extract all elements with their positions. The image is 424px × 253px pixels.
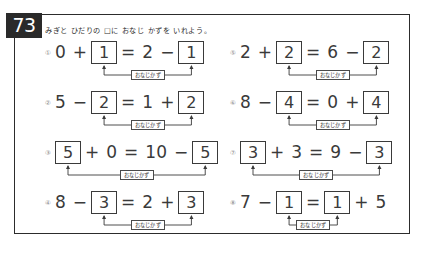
same-number-connector: おなじかず: [227, 214, 417, 236]
number-term: 1: [142, 94, 153, 111]
equation: 8−4=0+4: [240, 88, 389, 116]
connector-lines: [227, 114, 417, 136]
operator: −: [159, 44, 175, 61]
answer-box[interactable]: 1: [91, 41, 117, 64]
same-number-label: おなじかず: [131, 220, 165, 230]
problem-item: ④8−3=2+3おなじかず: [42, 188, 232, 238]
problem-marker: ④: [42, 199, 54, 207]
operator: =: [120, 94, 136, 111]
operator: −: [347, 144, 363, 161]
number-term: 6: [327, 44, 338, 61]
problem-marker: ⑥: [227, 99, 239, 107]
same-number-connector: おなじかず: [227, 114, 417, 136]
number-term: 2: [142, 44, 153, 61]
problem-item: ⑤2+2=6−2おなじかず: [227, 38, 417, 88]
answer-box[interactable]: 2: [91, 91, 117, 114]
equation: 8−3=2+3: [55, 188, 204, 216]
problem-item: ⑧7−1=1+5おなじかず: [227, 188, 417, 238]
problem-column-right: ⑤2+2=6−2おなじかず⑥8−4=0+4おなじかず⑦3+3=9−3おなじかず⑧…: [227, 38, 417, 238]
problem-item: ⑦3+3=9−3おなじかず: [227, 138, 417, 188]
same-number-label: おなじかず: [316, 120, 350, 130]
same-number-label: おなじかず: [316, 70, 350, 80]
operator: =: [120, 194, 136, 211]
answer-box[interactable]: 4: [276, 91, 302, 114]
problem-marker: ⑤: [227, 49, 239, 57]
operator: =: [305, 194, 321, 211]
same-number-connector: おなじかず: [227, 164, 417, 186]
answer-box[interactable]: 4: [363, 91, 389, 114]
answer-box[interactable]: 3: [91, 191, 117, 214]
connector-lines: [227, 164, 417, 186]
operator: +: [344, 94, 360, 111]
same-number-label: おなじかず: [131, 120, 165, 130]
operator: +: [72, 44, 88, 61]
problem-marker: ①: [42, 49, 54, 57]
problem-marker: ③: [42, 149, 54, 157]
operator: +: [159, 94, 175, 111]
operator: −: [72, 194, 88, 211]
problem-marker: ②: [42, 99, 54, 107]
operator: =: [308, 144, 324, 161]
same-number-label: おなじかず: [296, 220, 330, 230]
connector-lines: [227, 214, 417, 236]
operator: =: [305, 44, 321, 61]
number-term: 8: [240, 94, 251, 111]
instruction-text: みぎと ひだりの □に おなじ かずを いれよう。: [45, 25, 211, 35]
operator: +: [257, 44, 273, 61]
connector-lines: [42, 164, 232, 186]
number-term: 0: [327, 94, 338, 111]
operator: +: [269, 144, 285, 161]
same-number-label: おなじかず: [131, 70, 165, 80]
equation: 5+0=10−5: [55, 138, 218, 166]
number-term: 7: [240, 194, 251, 211]
equation: 5−2=1+2: [55, 88, 204, 116]
same-number-connector: おなじかず: [42, 114, 232, 136]
same-number-label: おなじかず: [299, 170, 333, 180]
operator: −: [72, 94, 88, 111]
equation: 0+1=2−1: [55, 38, 204, 66]
operator: +: [84, 144, 100, 161]
answer-box[interactable]: 5: [55, 141, 81, 164]
operator: −: [173, 144, 189, 161]
same-number-connector: おなじかず: [42, 164, 232, 186]
problem-item: ①0+1=2−1おなじかず: [42, 38, 232, 88]
problem-item: ③5+0=10−5おなじかず: [42, 138, 232, 188]
answer-box[interactable]: 3: [178, 191, 204, 214]
number-term: 8: [55, 194, 66, 211]
answer-box[interactable]: 2: [276, 41, 302, 64]
equation: 7−1=1+5: [240, 188, 386, 216]
connector-lines: [227, 64, 417, 86]
answer-box[interactable]: 1: [324, 191, 350, 214]
answer-box[interactable]: 2: [363, 41, 389, 64]
number-term: 2: [240, 44, 251, 61]
connector-lines: [42, 214, 232, 236]
answer-box[interactable]: 3: [240, 141, 266, 164]
number-term: 3: [291, 144, 302, 161]
number-term: 2: [142, 194, 153, 211]
problem-marker: ⑧: [227, 199, 239, 207]
operator: =: [305, 94, 321, 111]
answer-box[interactable]: 1: [276, 191, 302, 214]
answer-box[interactable]: 2: [178, 91, 204, 114]
number-term: 9: [330, 144, 341, 161]
operator: =: [123, 144, 139, 161]
problem-item: ⑥8−4=0+4おなじかず: [227, 88, 417, 138]
problem-marker: ⑦: [227, 149, 239, 157]
operator: =: [120, 44, 136, 61]
same-number-connector: おなじかず: [42, 214, 232, 236]
number-term: 0: [55, 44, 66, 61]
number-term: 5: [376, 194, 387, 211]
number-term: 0: [106, 144, 117, 161]
page-number-badge: 73: [6, 13, 42, 38]
answer-box[interactable]: 5: [192, 141, 218, 164]
operator: −: [257, 194, 273, 211]
operator: −: [344, 44, 360, 61]
same-number-label: おなじかず: [120, 170, 154, 180]
operator: −: [257, 94, 273, 111]
problem-item: ②5−2=1+2おなじかず: [42, 88, 232, 138]
equation: 3+3=9−3: [240, 138, 392, 166]
same-number-connector: おなじかず: [227, 64, 417, 86]
answer-box[interactable]: 3: [366, 141, 392, 164]
problem-column-left: ①0+1=2−1おなじかず②5−2=1+2おなじかず③5+0=10−5おなじかず…: [42, 38, 232, 238]
answer-box[interactable]: 1: [178, 41, 204, 64]
